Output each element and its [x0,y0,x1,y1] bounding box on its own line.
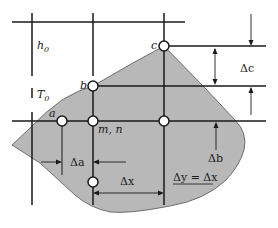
delta-c-arrowhead-down [213,79,218,85]
node-c [159,41,169,51]
label-T0: T0 [37,88,49,103]
node-mn [88,116,98,126]
label-a: a [49,107,56,120]
label-delta-c: Δc [240,62,254,75]
label-delta-b: Δb [208,152,223,165]
delta-b-upper-arrowhead [249,87,254,93]
node-bottom [88,177,98,187]
label-delta-a: Δa [70,156,85,169]
delta-c-arrowhead-up [213,48,218,54]
label-b: b [80,79,87,92]
label-h0: h0 [37,39,49,54]
node-b [88,81,98,91]
label-delta-x: Δx [120,175,135,188]
node-a [57,116,67,126]
finite-difference-diagram: h0 T0 a b c m, n Δa Δc Δb Δx Δy = Δx [0,0,278,228]
label-mn: m, n [98,123,123,136]
label-c: c [151,39,157,52]
label-delta-y-eq-delta-x: Δy = Δx [173,171,218,184]
node-right [159,116,169,126]
top-arrowhead-down [249,40,254,46]
